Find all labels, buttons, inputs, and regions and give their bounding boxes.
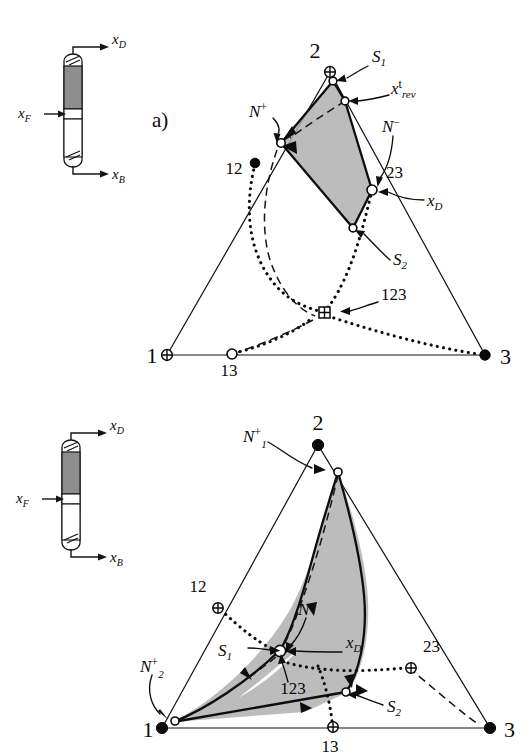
label-xD: xD: [426, 191, 443, 212]
ternary-triangle-b: 2 1 3 12 23 13 123 N+1 N+2 N− S1: [139, 410, 515, 753]
label-azeotrope-123: 123: [280, 679, 306, 698]
label-S2: S2: [387, 697, 402, 718]
feasible-distillate-region: [281, 81, 372, 228]
leader-N-minus-arrowhead: [376, 176, 383, 187]
marker-vertex-2: [325, 67, 336, 78]
label-azeotrope-23: 23: [423, 637, 440, 656]
column-schematic-a: xD xF xB: [17, 31, 127, 185]
label-S2: S2: [393, 250, 408, 271]
label-azeotrope-13: 13: [322, 737, 339, 753]
label-vertex-3: 3: [500, 344, 511, 369]
column-rectifying-section: [64, 66, 82, 109]
column-label-xF: xF: [17, 105, 32, 124]
reversible-profile-lower: [238, 320, 313, 352]
marker-azeotrope-123: [319, 307, 330, 318]
leader-S2: [364, 234, 390, 260]
trajectory-arrowhead-4: [356, 684, 368, 696]
ternary-triangle-a: 2 1 3 12 23 13 123 N+ N− S1 S2: [147, 38, 512, 380]
marker-azeotrope-13: [328, 722, 338, 732]
feasible-distillate-region: [173, 472, 368, 722]
column-feed-stage: [64, 109, 82, 119]
marker-vertex-3: [484, 722, 495, 733]
bottoms-arrowhead: [98, 554, 107, 561]
leader-S1: [347, 66, 368, 78]
column-label-xB: xB: [109, 549, 123, 568]
label-S1: S1: [372, 47, 386, 68]
panel-b: xD xF xB: [0, 380, 529, 753]
marker-azeotrope-12: [213, 603, 223, 613]
bottoms-line: [73, 166, 100, 174]
distillate-arrowhead: [98, 430, 107, 437]
label-azeotrope-12: 12: [190, 577, 207, 596]
marker-azeotrope-23: [367, 185, 377, 195]
label-azeotrope-123: 123: [381, 285, 407, 304]
label-azeotrope-23: 23: [386, 163, 403, 182]
marker-azeotrope-13: [227, 349, 237, 359]
leader-x-rev: [358, 95, 389, 101]
marker-vertex-2: [312, 439, 323, 450]
boundary-13-to-123: [234, 318, 312, 353]
distillate-line: [73, 47, 100, 54]
leader-x-rev-arrowhead: [349, 97, 359, 105]
column-label-xB: xB: [111, 166, 125, 185]
column-label-xF: xF: [15, 490, 30, 509]
boundary-12-to-S1: [221, 610, 272, 649]
marker-azeotrope-12: [250, 158, 260, 168]
distillate-line: [71, 433, 98, 440]
bottoms-arrowhead: [100, 171, 109, 178]
boundary-123-to-3: [328, 316, 478, 354]
label-azeotrope-13: 13: [221, 361, 238, 380]
label-N-plus: N+: [248, 100, 267, 121]
panel-b-graphic: xD xF xB: [0, 380, 529, 753]
label-x-rev: xtrev: [390, 77, 416, 100]
leader-123: [350, 302, 378, 311]
column-rectifying-section: [62, 452, 80, 494]
leader-xD-arrowhead: [378, 188, 388, 196]
bottoms-line: [71, 549, 98, 557]
label-vertex-3: 3: [504, 717, 515, 742]
leader-N1-plus-arrowhead: [314, 464, 326, 474]
marker-N2-plus-node: [171, 717, 179, 725]
leader-S1-arrowhead: [336, 75, 347, 83]
leader-N2-plus: [150, 675, 160, 714]
label-vertex-2: 2: [310, 38, 321, 63]
marker-azeotrope-23: [406, 663, 416, 673]
label-N1-plus: N+1: [242, 425, 267, 450]
leader-123-arrowhead: [340, 307, 350, 315]
marker-x-rev-node: [341, 97, 349, 105]
leader-S2: [356, 695, 383, 705]
column-feed-stage: [62, 494, 80, 504]
column-label-xD: xD: [111, 31, 127, 50]
leader-N1-plus: [268, 442, 312, 468]
marker-S1-node: [329, 77, 337, 85]
boundary-12-to-123: [249, 164, 322, 312]
panel-a-graphic: xD xF xB: [0, 0, 529, 380]
label-N-minus: N−: [381, 115, 400, 136]
label-vertex-2: 2: [313, 410, 324, 435]
figure-root: a): [0, 0, 529, 753]
label-azeotrope-12: 12: [226, 159, 243, 178]
marker-vertex-1: [156, 722, 167, 733]
marker-vertex-3: [480, 350, 490, 360]
marker-vertex-1: [162, 350, 173, 361]
panel-a: a): [0, 0, 529, 380]
column-label-xD: xD: [109, 417, 125, 436]
label-vertex-1: 1: [147, 343, 158, 368]
reversible-profile-right: [409, 668, 478, 724]
distillate-arrowhead: [100, 44, 109, 51]
leader-xD: [388, 192, 424, 200]
label-vertex-1: 1: [143, 717, 154, 742]
label-S1: S1: [218, 641, 232, 662]
marker-N1-plus-node: [334, 468, 342, 476]
column-schematic-b: xD xF xB: [15, 417, 125, 568]
